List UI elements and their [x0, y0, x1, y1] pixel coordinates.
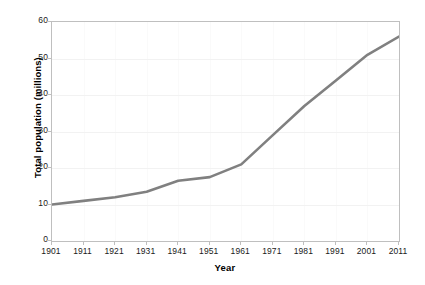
x-tick-label: 2011	[378, 246, 418, 256]
x-tick-mark	[51, 241, 52, 245]
data-series-svg	[52, 22, 399, 241]
y-tick-label: 0	[2, 235, 48, 244]
x-tick-mark	[335, 241, 336, 245]
y-tick-label: 30	[2, 126, 48, 135]
x-tick-mark	[366, 241, 367, 245]
x-tick-mark	[114, 241, 115, 245]
x-tick-mark	[398, 241, 399, 245]
y-tick-label: 10	[2, 199, 48, 208]
x-tick-mark	[240, 241, 241, 245]
population-line-chart: Total population (millions) 010203040506…	[0, 0, 425, 285]
y-tick-label: 60	[2, 16, 48, 25]
y-axis-tick-labels: 0102030405060	[0, 0, 48, 285]
plot-area	[51, 21, 400, 242]
x-tick-mark	[177, 241, 178, 245]
x-tick-mark	[303, 241, 304, 245]
x-tick-mark	[209, 241, 210, 245]
x-tick-mark	[83, 241, 84, 245]
x-tick-mark	[146, 241, 147, 245]
x-tick-mark	[272, 241, 273, 245]
data-line-total-population	[52, 37, 399, 205]
y-tick-label: 50	[2, 53, 48, 62]
x-axis-title: Year	[51, 262, 399, 273]
y-tick-label: 20	[2, 162, 48, 171]
y-tick-label: 40	[2, 89, 48, 98]
